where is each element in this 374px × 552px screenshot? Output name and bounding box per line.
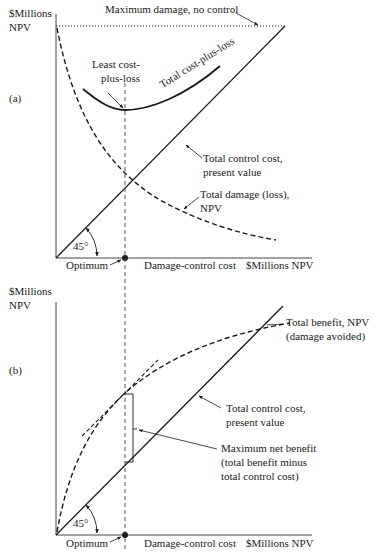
panel-a-control-cost-label-2: present value: [203, 166, 261, 179]
max-damage-label: Maximum damage, no control: [105, 3, 238, 16]
panel-b-x-axis-unit: $Millions NPV: [246, 537, 314, 550]
panel-a-y-axis-label-1: $Millions: [9, 7, 52, 20]
panel-b-optimum-arrow: [110, 537, 121, 542]
panel-a-control-cost-label-1: Total control cost,: [203, 152, 283, 165]
net-benefit-bracket: [125, 394, 137, 462]
panel-b-optimum-label: Optimum: [66, 537, 108, 550]
panel-b-control-cost-arrow: [199, 396, 221, 408]
panel-b-optimum-dot: [122, 532, 128, 538]
panel-a-y-axis-label-2: NPV: [9, 21, 31, 34]
panel-a-optimum-label: Optimum: [66, 259, 108, 272]
panel-b-y-axis-label-1: $Millions: [9, 285, 52, 298]
panel-a-x-axis-unit: $Millions NPV: [246, 259, 314, 272]
damage-label-2: NPV: [200, 202, 222, 215]
panel-b-y-axis-label-2: NPV: [9, 299, 31, 312]
net-benefit-label-2: (total benefit minus: [221, 456, 307, 469]
damage-label-1: Total damage (loss),: [200, 188, 289, 201]
panel-b-tag: (b): [9, 364, 22, 377]
least-cost-label-1: Least cost-: [92, 58, 140, 71]
net-benefit-label-1: Maximum net benefit: [221, 442, 316, 455]
damage-arrow: [184, 197, 199, 209]
panel-b-x-axis-label: Damage-control cost: [144, 537, 236, 550]
benefit-label-2: (damage avoided): [286, 330, 365, 343]
panel-a-optimum-arrow: [110, 260, 121, 265]
panel-a-control-cost-arrow: [186, 145, 202, 158]
max-damage-arrow: [236, 13, 258, 25]
panel-b-control-cost-label-1: Total control cost,: [226, 402, 306, 415]
panel-b-angle-label: 45°: [73, 517, 88, 530]
panel-b-control-cost-label-2: present value: [226, 416, 284, 429]
net-benefit-label-3: total control cost): [221, 470, 299, 483]
panel-a-angle-label: 45°: [73, 240, 88, 253]
least-cost-arrow: [108, 93, 123, 108]
tangent-line: [82, 360, 158, 436]
diagram-canvas: [0, 0, 374, 552]
total-damage-curve: [57, 28, 276, 240]
panel-a-control-cost-line: [56, 26, 285, 258]
panel-a-tag: (a): [9, 92, 21, 105]
benefit-label-1: Total benefit, NPV: [286, 316, 369, 329]
least-cost-label-2: plus-loss: [101, 72, 140, 85]
panel-a-x-axis-label: Damage-control cost: [144, 259, 236, 272]
panel-a: [56, 13, 312, 265]
